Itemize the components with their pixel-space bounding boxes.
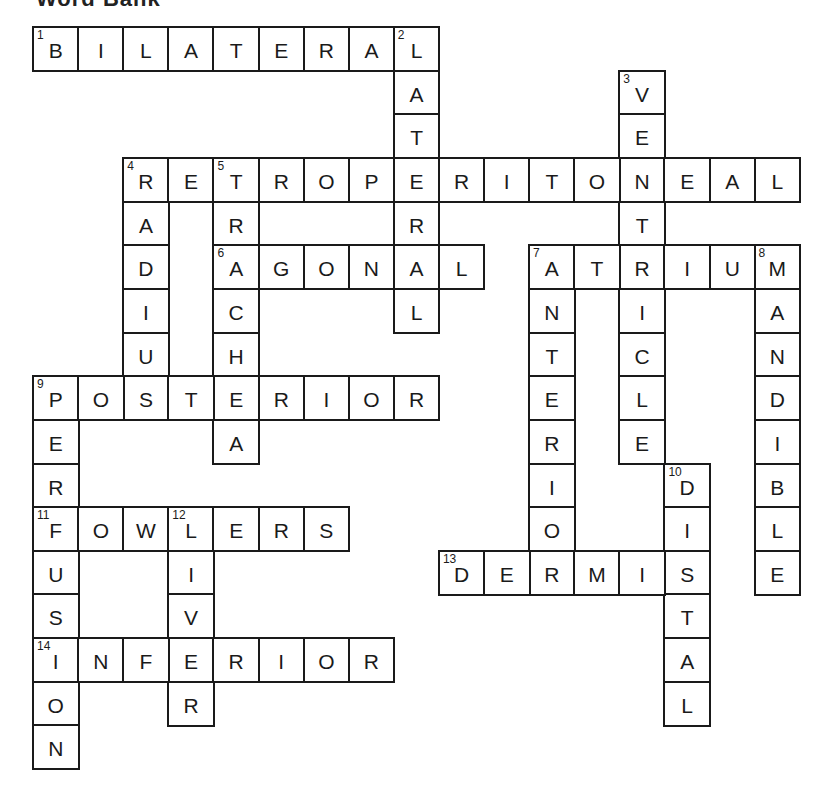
grid-cell-r0-c2[interactable]: L [122, 26, 170, 72]
grid-cell-r13-c3[interactable]: V [167, 593, 215, 639]
grid-cell-r3-c5[interactable]: R [258, 157, 306, 203]
grid-cell-r5-c12[interactable]: T [573, 244, 621, 290]
grid-cell-r5-c16[interactable]: 8M [754, 244, 802, 290]
grid-cell-r6-c16[interactable]: A [754, 288, 802, 334]
grid-cell-r3-c7[interactable]: P [348, 157, 396, 203]
grid-cell-r2-c8[interactable]: T [393, 113, 441, 159]
grid-cell-r3-c8[interactable]: E [393, 157, 441, 203]
grid-cell-r5-c4[interactable]: 6A [212, 244, 260, 290]
grid-cell-r9-c4[interactable]: A [212, 419, 260, 465]
grid-cell-r7-c13[interactable]: C [618, 332, 666, 378]
grid-cell-r12-c12[interactable]: M [573, 550, 621, 596]
grid-cell-r12-c9[interactable]: 13D [438, 550, 486, 596]
grid-cell-r12-c13[interactable]: I [618, 550, 666, 596]
grid-cell-r13-c0[interactable]: S [32, 593, 80, 639]
grid-cell-r11-c11[interactable]: O [528, 506, 576, 552]
grid-cell-r14-c4[interactable]: R [212, 637, 260, 683]
grid-cell-r12-c11[interactable]: R [528, 550, 576, 596]
grid-cell-r5-c11[interactable]: 7A [528, 244, 576, 290]
grid-cell-r8-c13[interactable]: L [618, 375, 666, 421]
grid-cell-r14-c7[interactable]: R [348, 637, 396, 683]
grid-cell-r5-c6[interactable]: O [303, 244, 351, 290]
grid-cell-r2-c13[interactable]: E [618, 113, 666, 159]
grid-cell-r11-c1[interactable]: O [77, 506, 125, 552]
grid-cell-r7-c4[interactable]: H [212, 332, 260, 378]
grid-cell-r10-c16[interactable]: B [754, 463, 802, 509]
grid-cell-r5-c14[interactable]: I [663, 244, 711, 290]
grid-cell-r8-c8[interactable]: R [393, 375, 441, 421]
grid-cell-r12-c16[interactable]: E [754, 550, 802, 596]
grid-cell-r8-c4[interactable]: E [212, 375, 260, 421]
grid-cell-r10-c0[interactable]: R [32, 463, 80, 509]
grid-cell-r8-c1[interactable]: O [77, 375, 125, 421]
grid-cell-r16-c0[interactable]: N [32, 724, 80, 770]
grid-cell-r5-c15[interactable]: U [709, 244, 757, 290]
grid-cell-r9-c16[interactable]: I [754, 419, 802, 465]
grid-cell-r11-c3[interactable]: 12L [167, 506, 215, 552]
grid-cell-r3-c2[interactable]: 4R [122, 157, 170, 203]
grid-cell-r6-c13[interactable]: I [618, 288, 666, 334]
grid-cell-r8-c16[interactable]: D [754, 375, 802, 421]
grid-cell-r0-c3[interactable]: A [167, 26, 215, 72]
grid-cell-r5-c9[interactable]: L [438, 244, 486, 290]
grid-cell-r9-c11[interactable]: R [528, 419, 576, 465]
grid-cell-r11-c16[interactable]: L [754, 506, 802, 552]
grid-cell-r14-c5[interactable]: I [258, 637, 306, 683]
grid-cell-r3-c14[interactable]: E [663, 157, 711, 203]
grid-cell-r8-c0[interactable]: 9P [32, 375, 80, 421]
grid-cell-r12-c14[interactable]: S [663, 550, 711, 596]
grid-cell-r7-c2[interactable]: U [122, 332, 170, 378]
grid-cell-r9-c0[interactable]: E [32, 419, 80, 465]
grid-cell-r6-c2[interactable]: I [122, 288, 170, 334]
grid-cell-r15-c0[interactable]: O [32, 681, 80, 727]
grid-cell-r0-c6[interactable]: R [303, 26, 351, 72]
grid-cell-r5-c8[interactable]: A [393, 244, 441, 290]
grid-cell-r13-c14[interactable]: T [663, 593, 711, 639]
grid-cell-r3-c4[interactable]: 5T [212, 157, 260, 203]
grid-cell-r6-c11[interactable]: N [528, 288, 576, 334]
grid-cell-r4-c4[interactable]: R [212, 201, 260, 247]
grid-cell-r0-c7[interactable]: A [348, 26, 396, 72]
grid-cell-r11-c0[interactable]: 11F [32, 506, 80, 552]
grid-cell-r5-c13[interactable]: R [618, 244, 666, 290]
grid-cell-r3-c6[interactable]: O [303, 157, 351, 203]
grid-cell-r4-c2[interactable]: A [122, 201, 170, 247]
grid-cell-r1-c8[interactable]: A [393, 70, 441, 116]
grid-cell-r14-c6[interactable]: O [303, 637, 351, 683]
grid-cell-r3-c15[interactable]: A [709, 157, 757, 203]
grid-cell-r3-c11[interactable]: T [528, 157, 576, 203]
grid-cell-r14-c3[interactable]: E [167, 637, 215, 683]
grid-cell-r11-c5[interactable]: R [258, 506, 306, 552]
grid-cell-r3-c13[interactable]: N [618, 157, 666, 203]
grid-cell-r8-c5[interactable]: R [258, 375, 306, 421]
grid-cell-r11-c6[interactable]: S [303, 506, 351, 552]
grid-cell-r10-c14[interactable]: 10D [663, 463, 711, 509]
grid-cell-r6-c4[interactable]: C [212, 288, 260, 334]
grid-cell-r0-c4[interactable]: T [212, 26, 260, 72]
grid-cell-r6-c8[interactable]: L [393, 288, 441, 334]
grid-cell-r12-c10[interactable]: E [483, 550, 531, 596]
grid-cell-r0-c0[interactable]: 1B [32, 26, 80, 72]
grid-cell-r4-c8[interactable]: R [393, 201, 441, 247]
grid-cell-r3-c3[interactable]: E [167, 157, 215, 203]
grid-cell-r12-c3[interactable]: I [167, 550, 215, 596]
grid-cell-r9-c13[interactable]: E [618, 419, 666, 465]
grid-cell-r10-c11[interactable]: I [528, 463, 576, 509]
grid-cell-r14-c14[interactable]: A [663, 637, 711, 683]
grid-cell-r15-c3[interactable]: R [167, 681, 215, 727]
grid-cell-r8-c6[interactable]: I [303, 375, 351, 421]
grid-cell-r11-c14[interactable]: I [663, 506, 711, 552]
grid-cell-r5-c2[interactable]: D [122, 244, 170, 290]
grid-cell-r11-c2[interactable]: W [122, 506, 170, 552]
grid-cell-r8-c7[interactable]: O [348, 375, 396, 421]
grid-cell-r12-c0[interactable]: U [32, 550, 80, 596]
grid-cell-r0-c5[interactable]: E [258, 26, 306, 72]
grid-cell-r14-c0[interactable]: 14I [32, 637, 80, 683]
grid-cell-r0-c8[interactable]: 2L [393, 26, 441, 72]
grid-cell-r5-c7[interactable]: N [348, 244, 396, 290]
grid-cell-r14-c1[interactable]: N [77, 637, 125, 683]
grid-cell-r3-c16[interactable]: L [754, 157, 802, 203]
grid-cell-r3-c10[interactable]: I [483, 157, 531, 203]
grid-cell-r4-c13[interactable]: T [618, 201, 666, 247]
grid-cell-r0-c1[interactable]: I [77, 26, 125, 72]
